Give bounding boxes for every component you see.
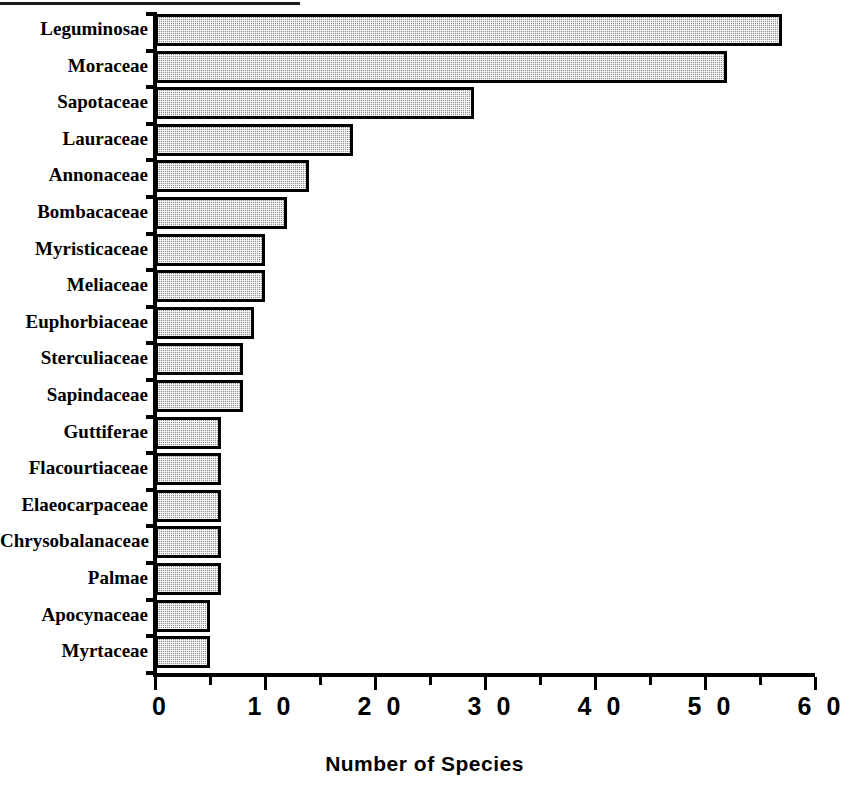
- bar-rect: [155, 87, 474, 119]
- category-label: Flacourtiaceae: [0, 457, 148, 479]
- bar-rect: [155, 270, 265, 302]
- y-tick: [146, 378, 156, 382]
- x-tick-minor: [759, 677, 762, 685]
- y-tick: [146, 598, 156, 602]
- category-label: Sterculiaceae: [0, 347, 148, 369]
- category-label: Euphorbiaceae: [0, 311, 148, 333]
- bar-annonaceae: [155, 160, 309, 192]
- bar-rect: [155, 197, 287, 229]
- x-tick-minor: [649, 677, 652, 685]
- bar-myristicaceae: [155, 234, 265, 266]
- bar-rect: [155, 343, 243, 375]
- category-label: Annonaceae: [0, 164, 148, 186]
- category-label: Myrtaceae: [0, 640, 148, 662]
- bar-rect: [155, 526, 221, 558]
- category-label: Leguminosae: [0, 18, 148, 40]
- bar-guttiferae: [155, 417, 221, 449]
- bar-meliaceae: [155, 270, 265, 302]
- y-tick: [146, 415, 156, 419]
- x-tick-label: 3 0: [468, 692, 515, 721]
- bar-sapindaceae: [155, 380, 243, 412]
- bar-rect: [155, 490, 221, 522]
- x-tick-label: 5 0: [688, 692, 735, 721]
- bar-chrysobalanaceae: [155, 526, 221, 558]
- y-tick: [146, 305, 156, 309]
- bar-myrtaceae: [155, 636, 210, 668]
- x-tick-major: [484, 677, 487, 690]
- bar-rect: [155, 380, 243, 412]
- y-tick: [146, 12, 156, 16]
- bar-apocynaceae: [155, 600, 210, 632]
- x-tick-major: [264, 677, 267, 690]
- bar-euphorbiaceae: [155, 307, 254, 339]
- bar-lauraceae: [155, 124, 353, 156]
- y-tick: [146, 451, 156, 455]
- bar-rect: [155, 453, 221, 485]
- bar-moraceae: [155, 51, 727, 83]
- y-tick: [146, 634, 156, 638]
- x-tick-major: [704, 677, 707, 690]
- y-tick: [146, 49, 156, 53]
- category-label: Elaeocarpaceae: [0, 494, 148, 516]
- bar-rect: [155, 14, 782, 46]
- bar-bombacaceae: [155, 197, 287, 229]
- category-label: Palmae: [0, 567, 148, 589]
- bar-rect: [155, 124, 353, 156]
- category-label: Lauraceae: [0, 128, 148, 150]
- category-label: Meliaceae: [0, 274, 148, 296]
- bar-rect: [155, 307, 254, 339]
- bar-rect: [155, 417, 221, 449]
- category-label: Sapotaceae: [0, 91, 148, 113]
- bar-elaeocarpaceae: [155, 490, 221, 522]
- x-tick-minor: [319, 677, 322, 685]
- y-tick: [146, 671, 156, 675]
- bar-palmae: [155, 563, 221, 595]
- y-tick: [146, 524, 156, 528]
- bar-leguminosae: [155, 14, 782, 46]
- bar-rect: [155, 51, 727, 83]
- bar-rect: [155, 563, 221, 595]
- y-tick: [146, 195, 156, 199]
- y-tick: [146, 122, 156, 126]
- category-label: Chrysobalanaceae: [0, 530, 148, 552]
- bar-sapotaceae: [155, 87, 474, 119]
- x-tick-major: [374, 677, 377, 690]
- category-label: Guttiferae: [0, 421, 148, 443]
- bar-flacourtiaceae: [155, 453, 221, 485]
- y-tick: [146, 341, 156, 345]
- y-tick: [146, 488, 156, 492]
- x-tick-label: 4 0: [578, 692, 625, 721]
- bar-sterculiaceae: [155, 343, 243, 375]
- category-label: Myristicaceae: [0, 238, 148, 260]
- x-tick-major: [814, 677, 817, 690]
- y-tick: [146, 561, 156, 565]
- category-label: Apocynaceae: [0, 604, 148, 626]
- x-tick-label: 6 0: [798, 692, 845, 721]
- species-per-family-bar-chart: LeguminosaeMoraceaeSapotaceaeLauraceaeAn…: [0, 0, 849, 807]
- x-tick-minor: [429, 677, 432, 685]
- x-tick-label: 2 0: [358, 692, 405, 721]
- y-tick: [146, 268, 156, 272]
- y-tick: [146, 232, 156, 236]
- x-tick-major: [154, 677, 157, 690]
- category-label: Moraceae: [0, 55, 148, 77]
- bar-rect: [155, 636, 210, 668]
- x-axis-title: Number of Species: [0, 752, 849, 776]
- x-tick-label: 0: [152, 692, 170, 721]
- bar-rect: [155, 234, 265, 266]
- bar-rect: [155, 600, 210, 632]
- category-label: Bombacaceae: [0, 201, 148, 223]
- bar-rect: [155, 160, 309, 192]
- x-tick-minor: [209, 677, 212, 685]
- x-tick-minor: [539, 677, 542, 685]
- x-tick-major: [594, 677, 597, 690]
- x-tick-label: 1 0: [248, 692, 295, 721]
- y-tick: [146, 85, 156, 89]
- y-tick: [146, 158, 156, 162]
- category-label: Sapindaceae: [0, 384, 148, 406]
